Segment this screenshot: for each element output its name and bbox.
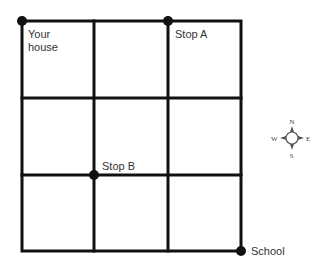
compass-north: N: [290, 118, 295, 126]
grid-border: [22, 21, 241, 251]
your-house-label-line1: Your: [28, 28, 51, 40]
your-house-marker: [17, 16, 27, 26]
compass-rose-icon: N S E W: [271, 118, 310, 160]
stop-a-label: Stop A: [175, 28, 208, 40]
street-map: Your house Stop A Stop B School N S E W: [0, 0, 323, 270]
school-marker: [236, 246, 246, 256]
street-grid: [22, 21, 241, 251]
stop-b-marker: [89, 170, 99, 180]
compass-west: W: [271, 135, 278, 143]
stop-a-marker: [163, 16, 173, 26]
compass-east: E: [306, 135, 310, 143]
school-label: School: [251, 245, 285, 257]
your-house-label-line2: house: [28, 41, 58, 53]
stop-b-label: Stop B: [102, 160, 135, 172]
compass-south: S: [290, 152, 294, 160]
